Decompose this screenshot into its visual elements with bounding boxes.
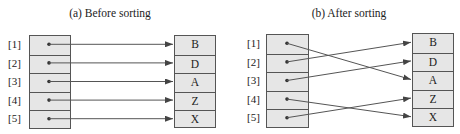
arrow-icon [287,43,411,79]
arrow-icon [287,42,411,62]
pointer-arrows [0,0,460,134]
arrow-icon [287,98,411,118]
arrow-icon [287,61,411,81]
